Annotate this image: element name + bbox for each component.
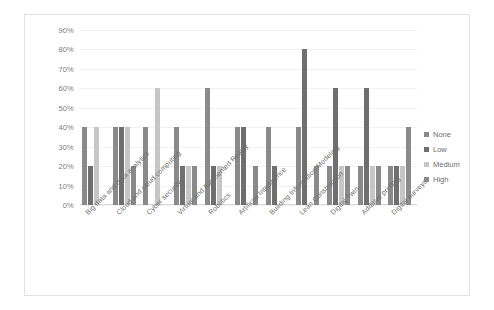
bar (113, 127, 118, 205)
chart-container: 0%10%20%30%40%50%60%70%80%90% Big data a… (24, 14, 470, 296)
bar (241, 127, 246, 205)
bar (266, 127, 271, 205)
y-axis-tick-label: 70% (58, 64, 74, 73)
bar (358, 166, 363, 205)
y-axis-tick-label: 0% (63, 201, 74, 210)
y-axis-tick-label: 80% (58, 45, 74, 54)
bar-group (235, 30, 262, 205)
legend-swatch-icon (424, 147, 429, 152)
y-axis-tick-label: 40% (58, 123, 74, 132)
legend-label: Low (433, 145, 447, 154)
plot-area: 0%10%20%30%40%50%60%70%80%90% (80, 30, 417, 205)
legend-swatch-icon (424, 162, 429, 167)
bar-group (82, 30, 109, 205)
legend-label: Medium (433, 160, 460, 169)
bar (143, 127, 148, 205)
bars-layer (80, 30, 417, 205)
bar (180, 166, 185, 205)
y-axis-tick-label: 10% (58, 181, 74, 190)
legend-item[interactable]: Medium (424, 157, 494, 172)
y-axis-tick-label: 20% (58, 162, 74, 171)
bar (364, 88, 369, 205)
bar (94, 127, 99, 205)
legend-label: High (433, 175, 448, 184)
cropped-title-strip (0, 0, 494, 12)
legend-swatch-icon (424, 177, 429, 182)
legend-item[interactable]: High (424, 172, 494, 187)
y-axis-tick-label: 50% (58, 103, 74, 112)
bar (155, 88, 160, 205)
bar-group (358, 30, 385, 205)
bar (235, 127, 240, 205)
y-axis-tick-label: 30% (58, 142, 74, 151)
x-axis-category-labels: Big data and data analyticsCloud and clo… (80, 211, 417, 297)
bar (296, 127, 301, 205)
legend-swatch-icon (424, 132, 429, 137)
chart-legend: NoneLowMediumHigh (424, 127, 494, 187)
bar (174, 127, 179, 205)
legend-label: None (433, 130, 451, 139)
y-axis-tick-label: 90% (58, 26, 74, 35)
y-axis-tick-label: 60% (58, 84, 74, 93)
bar (119, 127, 124, 205)
legend-item[interactable]: None (424, 127, 494, 142)
legend-item[interactable]: Low (424, 142, 494, 157)
bar (88, 166, 93, 205)
bar (82, 127, 87, 205)
